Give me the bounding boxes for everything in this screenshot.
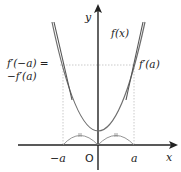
tick-label-pos-a: a [131,152,138,165]
tick-label-neg-a: −a [50,152,66,165]
arc-neg-side [63,136,98,146]
origin-label: O [85,152,94,165]
x-axis-label: x [166,151,173,164]
tangent-line-neg-a [54,22,72,100]
slope-label-left-line2: −f′(a) [7,70,37,82]
slope-label-left-line1: f′(−a) = [6,57,49,69]
y-axis-label: y [84,11,92,24]
function-graph: y x O −a a f(x) f′(a) f′(−a) = −f′(a) [0,0,181,172]
slope-label-right: f′(a) [138,58,160,70]
arc-pos-side [98,136,134,146]
guide-lines [60,65,134,145]
curve-label-f-of-x: f(x) [110,27,129,39]
diagram-canvas: y x O −a a f(x) f′(a) f′(−a) = −f′(a) [0,0,181,172]
